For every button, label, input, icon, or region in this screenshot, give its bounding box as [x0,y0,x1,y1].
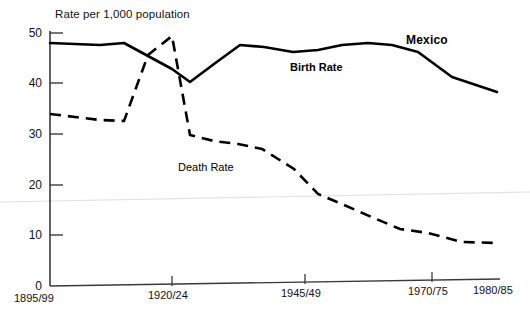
x-tick-label-1920-24: 1920/24 [148,289,188,301]
y-tick-label-10: 10 [14,228,42,242]
chart-canvas [0,0,530,315]
y-tick-label-40: 40 [14,76,42,90]
x-tick-label-1945-49: 1945/49 [281,287,321,299]
chart-figure: Rate per 1,000 population 50 40 30 20 10… [0,0,530,315]
x-tick-label-1980-85: 1980/85 [473,284,513,296]
series-label-birth-rate: Birth Rate [290,61,343,73]
y-tick-label-30: 30 [14,127,42,141]
x-tick-label-1970-75: 1970/75 [408,285,448,297]
y-tick-label-50: 50 [14,26,42,40]
y-tick-label-0: 0 [14,279,42,293]
series-label-death-rate: Death Rate [178,161,234,173]
y-tick-label-20: 20 [14,178,42,192]
region-title-mexico: Mexico [406,33,448,47]
y-axis-title: Rate per 1,000 population [55,8,190,20]
x-tick-label-1895-99: 1895/99 [14,292,54,304]
